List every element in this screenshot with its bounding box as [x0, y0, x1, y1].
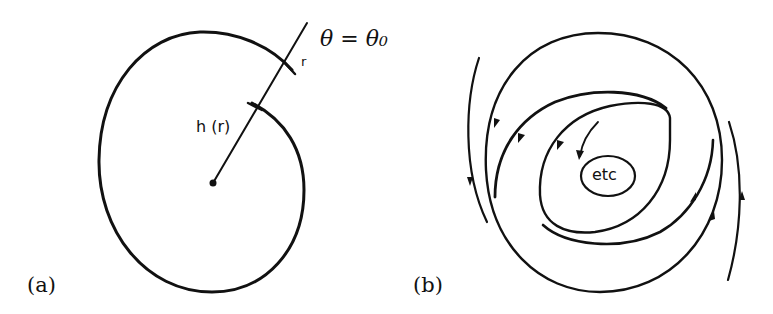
center-point	[210, 180, 217, 187]
outer-crossing-tick	[283, 61, 295, 74]
panel-a-label: (a)	[27, 273, 56, 297]
figure: θ = θ₀ r h (r) (a) etc (b)	[0, 0, 773, 314]
ray-equation-label: θ = θ₀	[320, 26, 388, 51]
arrow-left-outer	[467, 177, 473, 186]
inner-mark-label: h (r)	[196, 117, 230, 136]
outer-mark-label: r	[301, 54, 306, 69]
second-arc	[495, 92, 666, 197]
left-outer-arc	[468, 58, 487, 222]
panel-b-label: (b)	[413, 273, 443, 297]
arrow-outer-loop-left	[494, 118, 500, 128]
arrow-second-arc	[518, 133, 525, 143]
panel-b-drawing	[467, 33, 745, 292]
arrow-inner-loop	[557, 140, 564, 150]
etc-label: etc	[592, 165, 617, 184]
center-arrow-head	[576, 150, 584, 160]
spiral-curve	[99, 32, 304, 292]
right-outer-arc	[728, 122, 740, 280]
panel-a-drawing	[99, 23, 307, 292]
lower-arc	[543, 140, 713, 244]
outer-loop	[486, 33, 722, 292]
